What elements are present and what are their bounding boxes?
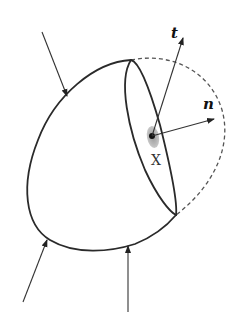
tangent-label: t xyxy=(171,24,178,42)
point-label: X xyxy=(151,152,161,168)
external-force-arrow-bottom-left xyxy=(23,240,47,302)
normal-label: n xyxy=(203,95,214,113)
external-force-arrow-top xyxy=(42,32,67,96)
tangent-arrow xyxy=(152,38,183,136)
body-cut-diagram: t n X xyxy=(0,0,242,330)
